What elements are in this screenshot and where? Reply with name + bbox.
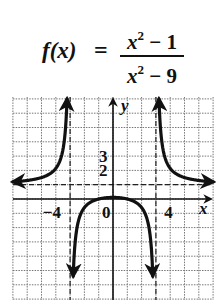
x-tick-label: 0 (102, 203, 111, 222)
x-tick-label: −4 (43, 203, 62, 222)
y-axis-label: y (119, 96, 129, 115)
axes (13, 99, 211, 300)
x-tick-label: 4 (164, 203, 173, 222)
curve-right-branch (159, 99, 213, 182)
y-tick-label: 3 (99, 147, 108, 166)
x-axis-label: x (198, 199, 208, 218)
graph: −40423xy (0, 0, 216, 307)
curve-left-branch (13, 99, 67, 182)
